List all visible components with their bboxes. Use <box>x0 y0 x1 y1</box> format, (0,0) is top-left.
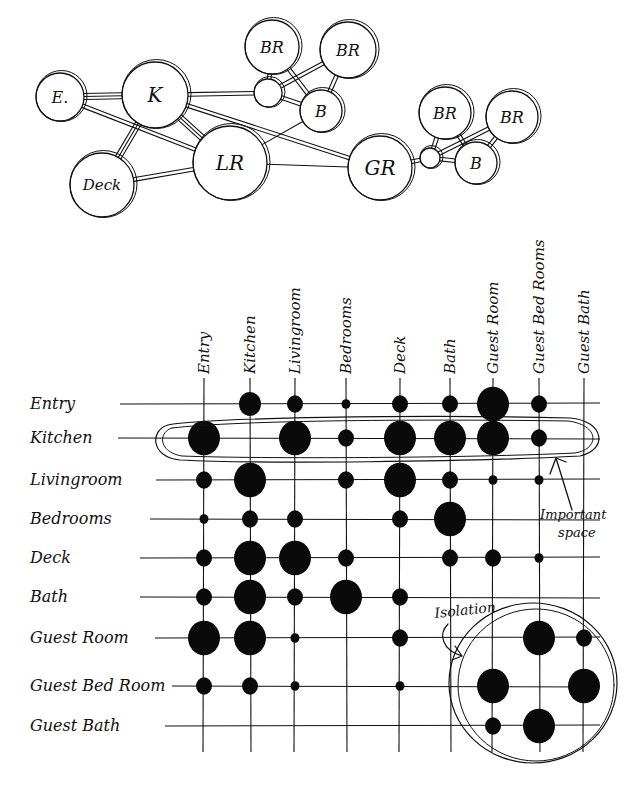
adjacency-dot <box>279 421 311 456</box>
adjacency-dot <box>442 395 458 412</box>
adjacency-dot <box>442 471 458 488</box>
bubble-node-br1: BR <box>245 18 302 75</box>
adjacency-dot <box>196 677 212 694</box>
adjacency-dot <box>196 588 212 605</box>
bubble-edge-e-k <box>84 93 122 100</box>
adjacency-dot <box>200 514 209 524</box>
annotations: Important space Isolation <box>156 416 617 763</box>
matrix-row-header: Kitchen <box>29 428 93 447</box>
adjacency-dot <box>287 395 303 412</box>
bubble-node-k: K <box>122 60 191 129</box>
adjacency-dot <box>485 717 501 734</box>
bubble-node-label: B <box>469 154 482 173</box>
adjacency-dot <box>576 629 592 646</box>
adjacency-dot <box>291 681 300 691</box>
adjacency-dot <box>234 541 266 576</box>
adjacency-dot <box>477 669 509 704</box>
matrix-column-header: Guest Room <box>484 281 502 374</box>
bubble-node-label: K <box>147 83 164 107</box>
matrix-column-header: Bedrooms <box>337 297 355 375</box>
bubble-node-gbr1: BR <box>419 85 474 140</box>
adjacency-dot <box>384 421 416 456</box>
adjacency-dot <box>338 549 354 566</box>
adjacency-dot <box>442 549 458 566</box>
adjacency-dot <box>485 549 501 566</box>
bubble-edge-deck-lr <box>133 167 194 181</box>
adjacency-dot <box>523 621 555 656</box>
bubble-node-label: E. <box>51 88 69 107</box>
adjacency-matrix: EntryKitchenLivingroomBedroomsDeckBathGu… <box>29 239 600 752</box>
adjacency-dot <box>239 392 261 416</box>
adjacency-dot <box>188 621 220 656</box>
bubble-node-gr: GR <box>348 134 415 201</box>
bubble-node-h2 <box>420 146 443 169</box>
adjacency-dot <box>242 677 258 694</box>
adjacency-dot <box>396 681 405 691</box>
bubble-node-b1: B <box>300 88 345 133</box>
matrix-column-header: Guest Bed Rooms <box>530 239 548 374</box>
matrix-row-line <box>156 479 600 480</box>
adjacency-dot <box>434 502 466 537</box>
bubble-node-e: E. <box>36 71 87 122</box>
adjacency-dot <box>523 709 555 744</box>
bubble-edge-gr-h2 <box>411 158 421 163</box>
sketch-canvas: E.KDeckLRBRBRBGRBRBRB EntryKitchenLiving… <box>0 0 644 790</box>
adjacency-dot <box>531 395 547 412</box>
adjacency-dot <box>287 588 303 605</box>
adjacency-dot <box>342 399 351 409</box>
bubble-node-label: Deck <box>82 176 121 194</box>
adjacency-dot <box>279 541 311 576</box>
bubble-edge-k-h1 <box>188 91 254 96</box>
adjacency-dot <box>338 471 354 488</box>
matrix-column-header: Kitchen <box>241 315 259 375</box>
adjacency-dot <box>477 421 509 456</box>
important-space-arrow <box>550 458 572 510</box>
bubble-node-br2: BR <box>320 20 379 79</box>
matrix-column-header: Bath <box>441 338 459 375</box>
important-space-label-line1: Important <box>539 507 607 522</box>
adjacency-dot <box>234 621 266 656</box>
matrix-row-header: Guest Room <box>30 628 129 647</box>
bubble-node-label: GR <box>364 156 395 180</box>
bubble-node-gb: B <box>455 140 500 185</box>
adjacency-dot <box>568 669 600 704</box>
adjacency-dot <box>338 429 354 446</box>
bubble-edge-lr-b1 <box>262 121 303 144</box>
matrix-row-header: Deck <box>29 548 71 567</box>
bubble-node-label: BR <box>259 38 284 57</box>
adjacency-dot <box>535 553 544 563</box>
adjacency-dot <box>489 475 498 485</box>
matrix-row-header: Guest Bath <box>30 716 120 735</box>
adjacency-dot <box>196 549 212 566</box>
bubble-node-label: BR <box>432 104 457 123</box>
adjacency-dot <box>535 475 544 485</box>
bubble-edge-br1-b1 <box>287 67 310 95</box>
bubble-node-h1 <box>254 77 285 108</box>
bubble-edge-k-lr <box>177 115 204 140</box>
adjacency-dot <box>392 395 408 412</box>
matrix-row-line <box>150 519 600 520</box>
matrix-row-header: Bath <box>29 587 68 606</box>
adjacency-dot <box>384 463 416 498</box>
adjacency-dot <box>392 588 408 605</box>
adjacency-dot <box>287 510 303 527</box>
bubble-node-gbr2: BR <box>486 89 541 144</box>
important-space-label-line2: space <box>558 525 596 540</box>
matrix-row-line <box>172 686 600 687</box>
adjacency-dot <box>392 510 408 527</box>
sketch-svg: E.KDeckLRBRBRBGRBRBRB EntryKitchenLiving… <box>0 0 644 790</box>
adjacency-dot <box>234 580 266 615</box>
bubble-edge-lr-gr <box>267 164 348 167</box>
adjacency-dot <box>434 421 466 456</box>
matrix-row-header: Livingroom <box>29 470 123 489</box>
adjacency-dot <box>196 471 212 488</box>
matrix-row-header: Bedrooms <box>29 509 112 528</box>
adjacency-dot <box>291 633 300 643</box>
isolation-arrow <box>443 624 462 660</box>
matrix-row-header: Guest Bed Room <box>30 676 165 695</box>
bubble-node-label: B <box>314 102 327 121</box>
bubble-diagram: E.KDeckLRBRBRBGRBRBRB <box>36 18 541 218</box>
bubble-node-lr: LR <box>193 124 270 201</box>
adjacency-dot <box>234 463 266 498</box>
matrix-column-header: Livingroom <box>286 287 304 375</box>
